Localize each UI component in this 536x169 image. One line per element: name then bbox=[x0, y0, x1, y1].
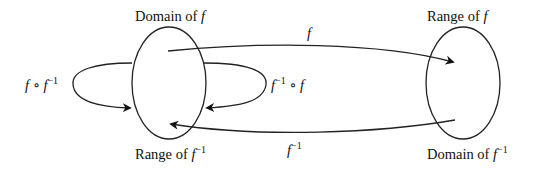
label-sup: −1 bbox=[291, 140, 302, 151]
label-var: f bbox=[201, 8, 205, 24]
label-var: f bbox=[483, 8, 487, 24]
label-domain-of-f-inverse: Domain of f−1 bbox=[427, 145, 508, 162]
label-text: Range of bbox=[427, 8, 480, 24]
arrow-f-inverse bbox=[171, 120, 455, 132]
label-domain-of-f: Domain of f bbox=[135, 9, 205, 24]
label-text: Domain of bbox=[427, 146, 489, 162]
arrow-f bbox=[168, 45, 453, 62]
inverse-function-diagram: Domain of f Range of f−1 Range of f Doma… bbox=[0, 0, 536, 169]
label-sup: −1 bbox=[195, 144, 206, 155]
label-sup: −1 bbox=[275, 75, 286, 86]
diagram-canvas bbox=[0, 0, 536, 169]
loop-f-of-f-inverse bbox=[73, 63, 132, 108]
label-sup: −1 bbox=[47, 75, 58, 86]
label-range-of-f: Range of f bbox=[427, 9, 487, 24]
label-text: Range of bbox=[135, 146, 188, 162]
label-range-of-f-inverse: Range of f−1 bbox=[135, 145, 206, 162]
loop-label-f-of-f-inverse: f ∘ f−1 bbox=[25, 76, 58, 93]
compose-op: ∘ bbox=[33, 77, 40, 93]
label-sup: −1 bbox=[497, 144, 508, 155]
edge-label-f: f bbox=[307, 26, 311, 41]
left-set-ellipse bbox=[132, 27, 206, 139]
loop-label-f-inverse-of-f: f−1 ∘ f bbox=[271, 76, 304, 93]
edge-label-f-inverse: f−1 bbox=[287, 141, 302, 158]
loop-f-inverse-of-f bbox=[203, 63, 266, 108]
label-text: Domain of bbox=[135, 8, 197, 24]
compose-op: ∘ bbox=[289, 77, 296, 93]
label-var: f bbox=[300, 77, 304, 93]
label-var: f bbox=[307, 25, 311, 41]
label-var: f bbox=[25, 77, 29, 93]
